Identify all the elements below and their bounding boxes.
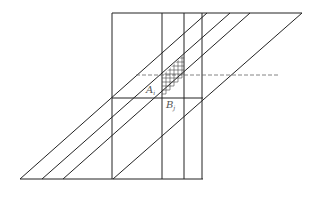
outline-lines <box>20 13 302 179</box>
tiling-diagram: Ai Bj <box>0 0 316 200</box>
label-a: Ai <box>145 84 155 96</box>
diagonal-line-1 <box>20 13 207 179</box>
diagonal-line-3 <box>63 13 250 179</box>
diagonal-line-4 <box>113 13 302 179</box>
label-b: Bj <box>165 99 175 112</box>
